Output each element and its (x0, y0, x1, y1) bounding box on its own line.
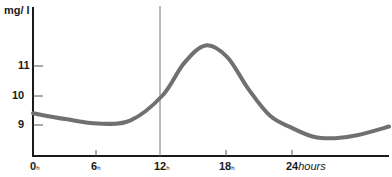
line-chart (0, 0, 392, 177)
y-tick-label-11: 11 (18, 59, 30, 71)
x-tick-label-24: 24hours (286, 160, 326, 172)
x-tick-label-0: 0h (30, 160, 39, 172)
x-tick-label-12: 12h (154, 160, 170, 172)
y-axis-unit-label: mg/ l (4, 4, 30, 16)
x-axis-unit-label: hours (298, 160, 326, 172)
x-tick-label-18: 18h (219, 160, 235, 172)
y-tick-label-10: 10 (12, 89, 24, 101)
y-tick-label-9: 9 (18, 118, 24, 130)
x-tick-label-6: 6h (91, 160, 100, 172)
concentration-curve (33, 45, 389, 138)
